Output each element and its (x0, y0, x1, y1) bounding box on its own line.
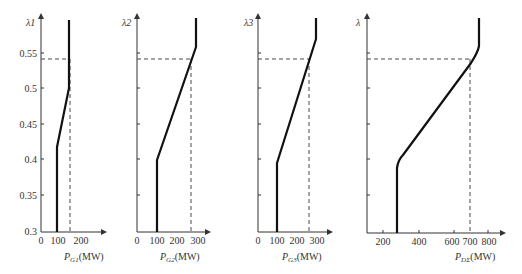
svg-text:100: 100 (270, 235, 285, 246)
svg-text:100: 100 (51, 235, 66, 246)
y-tick-label: 0.4 (25, 154, 38, 165)
x-axis-label: PG2(MW) (159, 251, 200, 264)
chart-4-pdsum: λ 200 400 600 700 800 PDΣ(MW) (355, 16, 503, 264)
svg-text:0: 0 (39, 235, 44, 246)
characteristic-curve (157, 18, 196, 232)
y-tick-label: 0.55 (20, 48, 38, 59)
characteristic-curve (397, 18, 479, 233)
y-tick-label: 0.35 (20, 190, 38, 201)
x-axis-label: PG3(MW) (281, 251, 322, 264)
x-ticks: 0 100 200 (39, 235, 89, 246)
chart-1-pg1: λ1 0.55 0.5 0.45 0.4 0.35 0.3 0 100 200 … (20, 16, 105, 264)
y-axis-label: λ (355, 17, 361, 28)
svg-text:300: 300 (310, 235, 325, 246)
chart-3-pg3: λ3 0 100 200 300 PG3(MW) (243, 16, 330, 264)
y-tick-label: 0.5 (25, 83, 38, 94)
y-axis-label: λ1 (25, 17, 35, 28)
chart-2-pg2: λ2 0 100 200 300 PG2(MW) (121, 16, 208, 264)
x-axis-label: PDΣ(MW) (454, 251, 495, 264)
y-axis-label: λ2 (121, 17, 131, 28)
y-tick-label: 0.45 (20, 119, 38, 130)
svg-text:400: 400 (412, 236, 427, 247)
svg-text:100: 100 (150, 235, 165, 246)
y-axis-label: λ3 (243, 17, 253, 28)
svg-text:600: 600 (445, 236, 460, 247)
svg-text:200: 200 (170, 235, 185, 246)
characteristic-curve (57, 20, 69, 232)
y-ticks: 0.55 0.5 0.45 0.4 0.35 0.3 (20, 48, 45, 237)
svg-text:0: 0 (256, 235, 261, 246)
svg-text:300: 300 (191, 235, 206, 246)
y-tick-label: 0.3 (25, 226, 38, 237)
svg-text:200: 200 (376, 236, 391, 247)
svg-text:200: 200 (290, 235, 305, 246)
characteristic-curve (277, 18, 316, 232)
svg-text:700: 700 (463, 236, 478, 247)
lambda-power-charts: λ1 0.55 0.5 0.45 0.4 0.35 0.3 0 100 200 … (0, 0, 522, 274)
x-ticks: 0 100 200 300 (256, 235, 325, 246)
x-ticks: 0 100 200 300 (135, 235, 206, 246)
svg-text:200: 200 (74, 235, 89, 246)
x-axis-label: PG1(MW) (63, 251, 104, 264)
svg-text:0: 0 (135, 235, 140, 246)
svg-text:800: 800 (482, 236, 497, 247)
